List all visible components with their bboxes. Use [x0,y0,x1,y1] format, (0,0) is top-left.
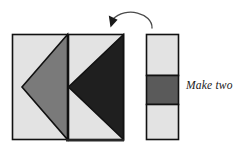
quilt-block-diagram: Make two [0,0,252,146]
curved-rotation-arrow [109,12,152,28]
strip-top-light-band [147,35,179,76]
make-two-caption: Make two [186,79,252,92]
arrow-arc-path [113,12,153,28]
left-pieced-square [13,35,68,140]
block-bottom-shadow [66,139,124,141]
strip-bottom-light-band [147,105,179,140]
right-pieced-square [69,35,124,140]
three-band-strip [147,35,179,140]
strip-middle-dark-band [147,76,179,105]
diagram-canvas [0,0,252,146]
arrow-head-icon [109,16,118,28]
